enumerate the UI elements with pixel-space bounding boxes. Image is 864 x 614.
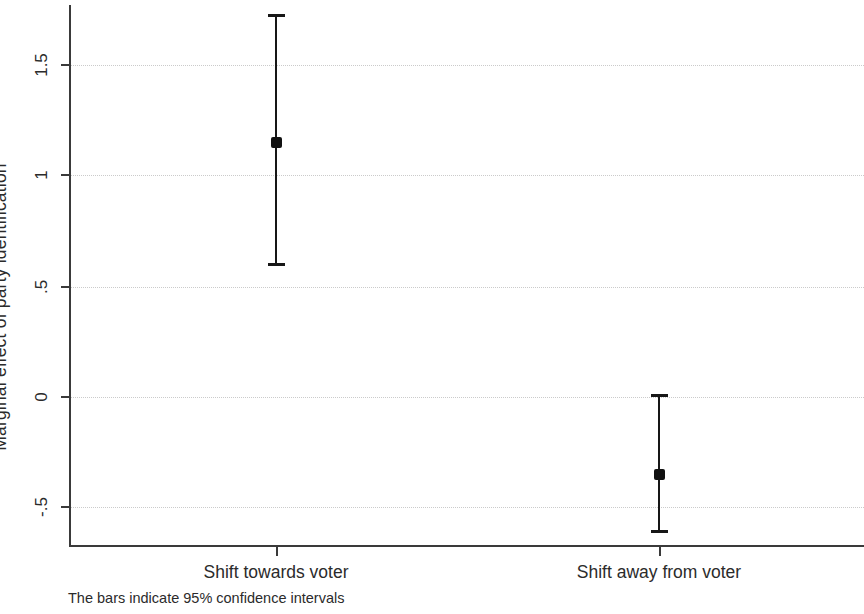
x-tick-mark-shift-away-from-voter xyxy=(659,547,661,556)
chart-figure: Marginal effect of party identification … xyxy=(0,0,864,614)
x-tick-mark-shift-towards-voter xyxy=(276,547,278,556)
y-axis-spine xyxy=(69,5,71,547)
point-marker-2 xyxy=(654,469,665,480)
chart-footnote: The bars indicate 95% confidence interva… xyxy=(68,590,344,606)
gridline-1 xyxy=(71,175,864,177)
y-tick-label-1-5: 1.5 xyxy=(32,35,52,95)
ci-lower-cap-1 xyxy=(268,263,285,266)
x-tick-label-shift-towards-voter: Shift towards voter xyxy=(204,562,349,583)
x-tick-label-shift-away-from-voter: Shift away from voter xyxy=(577,562,741,583)
y-tick-label-1: 1 xyxy=(32,145,52,205)
gridline-0-5 xyxy=(71,287,864,289)
y-tick-mark-neg-0-5 xyxy=(61,506,70,508)
y-tick-mark-1 xyxy=(61,174,70,176)
gridline-neg-0-5 xyxy=(71,507,864,509)
y-tick-label-0: 0 xyxy=(32,367,52,427)
y-tick-mark-1-5 xyxy=(61,64,70,66)
gridline-1-5 xyxy=(71,65,864,67)
ci-lower-cap-2 xyxy=(651,530,668,533)
x-axis-spine xyxy=(69,545,864,547)
y-tick-mark-0 xyxy=(61,396,70,398)
gridline-0 xyxy=(71,397,864,399)
y-tick-label-0-5: .5 xyxy=(32,257,52,317)
ci-stem-2 xyxy=(658,395,660,533)
y-tick-label-neg-0-5: -.5 xyxy=(32,477,52,537)
point-marker-1 xyxy=(271,137,282,148)
y-tick-mark-0-5 xyxy=(61,286,70,288)
